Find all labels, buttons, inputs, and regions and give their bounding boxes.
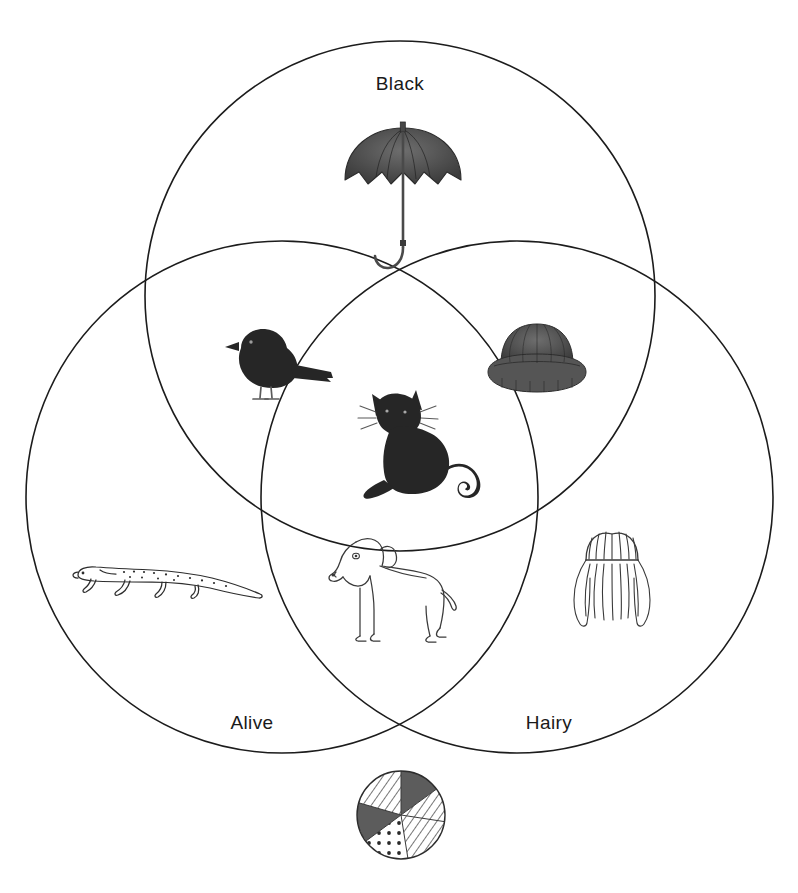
set-label-alive: Alive <box>230 712 273 733</box>
set-label-hairy: Hairy <box>526 712 572 733</box>
venn-diagram-canvas: Black Alive Hairy <box>0 0 798 893</box>
ball-icon[interactable] <box>354 768 448 862</box>
cat-icon[interactable] <box>350 388 488 508</box>
hat-icon[interactable] <box>482 316 592 398</box>
bird-icon[interactable] <box>215 320 339 406</box>
wig-icon[interactable] <box>556 524 668 632</box>
umbrella-icon[interactable] <box>341 122 465 282</box>
set-label-black: Black <box>376 73 425 94</box>
lizard-icon[interactable] <box>70 556 266 612</box>
dog-icon[interactable] <box>322 528 462 646</box>
